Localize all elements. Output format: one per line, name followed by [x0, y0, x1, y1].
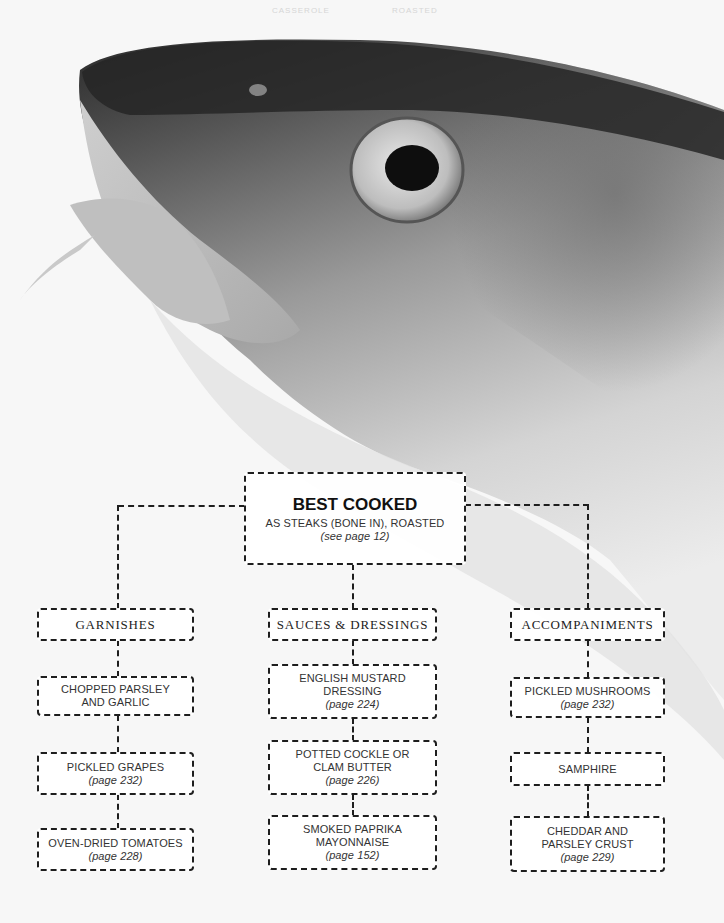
connector-left-3: [117, 794, 119, 829]
item-label: PICKLED MUSHROOMS: [525, 685, 651, 698]
root-title: BEST COOKED: [293, 495, 418, 515]
item-label: SAMPHIRE: [558, 763, 616, 776]
heading-garnishes: GARNISHES: [37, 608, 194, 641]
item-page-ref: (page 152): [325, 849, 379, 862]
connector-left-2: [117, 715, 119, 753]
item-page-ref: (page 226): [325, 774, 379, 787]
connector-middle-1: [352, 640, 354, 665]
item-label: ENGLISH MUSTARD DRESSING: [298, 672, 407, 698]
heading-label: ACCOMPANIMENTS: [521, 618, 653, 631]
connector-right-2: [587, 717, 589, 753]
root-page-ref: (see page 12): [320, 530, 389, 543]
item-page-ref: (page 228): [88, 850, 142, 863]
item-smoked-paprika-mayonnaise: SMOKED PAPRIKA MAYONNAISE (page 152): [268, 815, 437, 870]
connector-root-left: [118, 505, 245, 507]
item-oven-dried-tomatoes: OVEN-DRIED TOMATOES (page 228): [37, 828, 194, 871]
item-page-ref: (page 232): [88, 774, 142, 787]
connector-right-down: [587, 504, 589, 609]
item-page-ref: (page 229): [560, 851, 614, 864]
connector-middle-2: [352, 718, 354, 741]
item-pickled-mushrooms: PICKLED MUSHROOMS (page 232): [510, 677, 665, 718]
item-label: PICKLED GRAPES: [67, 761, 164, 774]
item-pickled-grapes: PICKLED GRAPES (page 232): [37, 752, 194, 795]
faint-header-text-1: CASSEROLE: [272, 6, 330, 15]
connector-right-3: [587, 785, 589, 817]
connector-left-down: [117, 505, 119, 609]
faint-header-text-2: ROASTED: [392, 6, 438, 15]
connector-root-right: [465, 504, 589, 506]
connector-left-1: [117, 640, 119, 677]
item-samphire: SAMPHIRE: [510, 752, 665, 786]
connector-right-1: [587, 640, 589, 678]
heading-label: GARNISHES: [75, 618, 155, 631]
connector-root-middle: [352, 564, 354, 609]
item-label: SMOKED PAPRIKA MAYONNAISE: [298, 823, 407, 849]
item-chopped-parsley-garlic: CHOPPED PARSLEY AND GARLIC: [37, 676, 194, 716]
item-label: OVEN-DRIED TOMATOES: [48, 837, 182, 850]
heading-sauces-dressings: SAUCES & DRESSINGS: [268, 608, 437, 641]
item-label: POTTED COCKLE OR CLAM BUTTER: [286, 748, 419, 774]
heading-label: SAUCES & DRESSINGS: [277, 618, 429, 631]
connector-middle-3: [352, 794, 354, 816]
item-page-ref: (page 224): [325, 698, 379, 711]
item-page-ref: (page 232): [560, 698, 614, 711]
item-cheddar-parsley-crust: CHEDDAR AND PARSLEY CRUST (page 229): [510, 816, 665, 872]
item-potted-cockle-clam-butter: POTTED COCKLE OR CLAM BUTTER (page 226): [268, 740, 437, 795]
item-label: CHOPPED PARSLEY AND GARLIC: [57, 683, 174, 709]
item-label: CHEDDAR AND PARSLEY CRUST: [526, 825, 649, 851]
heading-accompaniments: ACCOMPANIMENTS: [510, 608, 665, 641]
item-english-mustard-dressing: ENGLISH MUSTARD DRESSING (page 224): [268, 664, 437, 719]
root-subtitle: AS STEAKS (BONE IN), ROASTED: [266, 517, 445, 530]
root-node-best-cooked: BEST COOKED AS STEAKS (BONE IN), ROASTED…: [244, 472, 466, 565]
